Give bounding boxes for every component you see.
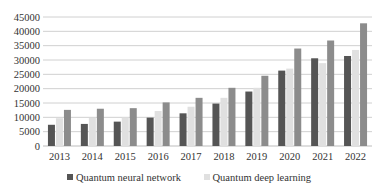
x-axis-ticks: 2013201420152016201720182019202020212022 xyxy=(49,151,366,162)
bar xyxy=(48,125,55,146)
y-tick-label: 45000 xyxy=(14,12,40,23)
bar xyxy=(352,50,359,146)
bar xyxy=(278,71,285,146)
y-tick-label: 35000 xyxy=(14,40,40,51)
legend: Quantum neural network Quantum deep lear… xyxy=(0,171,378,183)
y-tick-label: 25000 xyxy=(14,69,40,80)
bar xyxy=(212,104,219,146)
bar xyxy=(253,88,260,146)
y-tick-label: 10000 xyxy=(14,112,40,123)
bar xyxy=(64,110,71,146)
bars xyxy=(48,23,367,146)
legend-item-quantum-deep-learning: Quantum deep learning xyxy=(204,172,312,183)
bar xyxy=(188,107,195,146)
bar xyxy=(114,122,121,146)
bar xyxy=(163,102,170,146)
bar xyxy=(56,118,63,146)
bar-chart: 0500010000150002000025000300003500040000… xyxy=(0,0,378,195)
bar xyxy=(311,58,318,146)
x-tick-label: 2014 xyxy=(82,151,104,162)
bar xyxy=(261,76,268,146)
y-tick-label: 0 xyxy=(35,141,40,152)
bar xyxy=(97,109,104,146)
y-axis-ticks: 0500010000150002000025000300003500040000… xyxy=(14,12,40,152)
legend-label: Quantum neural network xyxy=(76,172,181,183)
bar xyxy=(228,88,235,146)
bar xyxy=(130,108,137,146)
bar xyxy=(81,124,88,146)
y-tick-label: 5000 xyxy=(19,126,40,137)
bar xyxy=(196,98,203,146)
legend-item-quantum-neural-network: Quantum neural network xyxy=(67,172,181,183)
bar xyxy=(180,113,187,146)
y-tick-label: 30000 xyxy=(14,55,40,66)
bar xyxy=(360,23,367,146)
x-tick-label: 2019 xyxy=(246,151,267,162)
x-tick-label: 2020 xyxy=(279,151,300,162)
y-tick-label: 20000 xyxy=(14,83,40,94)
legend-swatch xyxy=(67,174,73,180)
bar xyxy=(319,63,326,146)
bar xyxy=(122,118,129,146)
y-tick-label: 40000 xyxy=(14,26,40,37)
bar xyxy=(89,118,96,146)
legend-label: Quantum deep learning xyxy=(213,172,312,183)
bar xyxy=(327,41,334,146)
x-tick-label: 2017 xyxy=(181,151,202,162)
x-tick-label: 2022 xyxy=(345,151,366,162)
x-tick-label: 2013 xyxy=(49,151,70,162)
legend-swatch xyxy=(204,174,210,180)
x-tick-label: 2018 xyxy=(213,151,234,162)
bar xyxy=(245,92,252,146)
bar xyxy=(155,111,162,146)
bar xyxy=(344,56,351,146)
bar xyxy=(220,98,227,146)
bar xyxy=(286,69,293,146)
x-tick-label: 2021 xyxy=(312,151,333,162)
bar xyxy=(147,118,154,146)
x-tick-label: 2015 xyxy=(115,151,136,162)
bar xyxy=(294,49,301,146)
y-tick-label: 15000 xyxy=(14,98,40,109)
x-tick-label: 2016 xyxy=(148,151,169,162)
